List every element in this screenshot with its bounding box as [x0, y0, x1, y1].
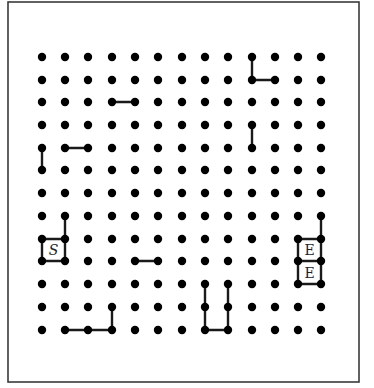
grid-dot[interactable] [317, 144, 325, 152]
grid-dot[interactable] [317, 212, 325, 220]
grid-dot[interactable] [84, 189, 92, 197]
grid-dot[interactable] [294, 53, 302, 61]
grid-dot[interactable] [294, 280, 302, 288]
grid-dot[interactable] [294, 121, 302, 129]
grid-dot[interactable] [178, 144, 186, 152]
grid-dot[interactable] [38, 53, 46, 61]
grid-dot[interactable] [201, 189, 209, 197]
grid-dot[interactable] [248, 53, 256, 61]
grid-dot[interactable] [154, 121, 162, 129]
grid-dot[interactable] [61, 303, 69, 311]
grid-dot[interactable] [108, 98, 116, 106]
grid-dot[interactable] [61, 53, 69, 61]
grid-dot[interactable] [248, 144, 256, 152]
grid-dot[interactable] [61, 235, 69, 243]
grid-dot[interactable] [154, 212, 162, 220]
grid-dot[interactable] [294, 144, 302, 152]
grid-dot[interactable] [84, 76, 92, 84]
grid-dot[interactable] [131, 280, 139, 288]
grid-dot[interactable] [61, 144, 69, 152]
grid-dot[interactable] [84, 98, 92, 106]
grid-dot[interactable] [131, 257, 139, 265]
grid-dot[interactable] [178, 53, 186, 61]
grid-dot[interactable] [271, 98, 279, 106]
grid-dot[interactable] [201, 326, 209, 334]
grid-dot[interactable] [131, 235, 139, 243]
grid-dot[interactable] [178, 280, 186, 288]
grid-dot[interactable] [84, 303, 92, 311]
grid-dot[interactable] [108, 280, 116, 288]
grid-dot[interactable] [317, 280, 325, 288]
grid-dot[interactable] [38, 235, 46, 243]
grid-dot[interactable] [84, 257, 92, 265]
grid-dot[interactable] [224, 166, 232, 174]
grid-dot[interactable] [317, 121, 325, 129]
grid-dot[interactable] [108, 235, 116, 243]
grid-dot[interactable] [131, 326, 139, 334]
grid-dot[interactable] [317, 326, 325, 334]
grid-dot[interactable] [271, 280, 279, 288]
grid-dot[interactable] [178, 166, 186, 174]
grid-dot[interactable] [201, 98, 209, 106]
grid-dot[interactable] [178, 76, 186, 84]
grid-dot[interactable] [248, 280, 256, 288]
grid-dot[interactable] [178, 121, 186, 129]
grid-dot[interactable] [294, 303, 302, 311]
grid-dot[interactable] [84, 144, 92, 152]
grid-dot[interactable] [61, 189, 69, 197]
grid-dot[interactable] [317, 166, 325, 174]
grid-dot[interactable] [108, 326, 116, 334]
grid-dot[interactable] [61, 280, 69, 288]
grid-dot[interactable] [271, 144, 279, 152]
grid-dot[interactable] [38, 303, 46, 311]
grid-dot[interactable] [271, 53, 279, 61]
grid-dot[interactable] [178, 189, 186, 197]
grid-dot[interactable] [131, 303, 139, 311]
grid-dot[interactable] [294, 257, 302, 265]
grid-dot[interactable] [154, 303, 162, 311]
grid-dot[interactable] [154, 235, 162, 243]
grid-dot[interactable] [317, 257, 325, 265]
grid-dot[interactable] [108, 144, 116, 152]
grid-dot[interactable] [131, 53, 139, 61]
grid-dot[interactable] [317, 76, 325, 84]
grid-dot[interactable] [271, 235, 279, 243]
grid-dot[interactable] [201, 53, 209, 61]
grid-dot[interactable] [294, 76, 302, 84]
grid-dot[interactable] [38, 326, 46, 334]
grid-dot[interactable] [224, 235, 232, 243]
grid-dot[interactable] [178, 257, 186, 265]
grid-dot[interactable] [154, 76, 162, 84]
grid-dot[interactable] [294, 166, 302, 174]
grid-dot[interactable] [61, 326, 69, 334]
grid-dot[interactable] [38, 121, 46, 129]
grid-dot[interactable] [248, 166, 256, 174]
grid-dot[interactable] [154, 144, 162, 152]
grid-dot[interactable] [84, 280, 92, 288]
grid-dot[interactable] [38, 144, 46, 152]
grid-dot[interactable] [224, 76, 232, 84]
grid-dot[interactable] [248, 303, 256, 311]
grid-dot[interactable] [201, 212, 209, 220]
grid-dot[interactable] [61, 166, 69, 174]
grid-dot[interactable] [154, 257, 162, 265]
grid-dot[interactable] [61, 98, 69, 106]
grid-dot[interactable] [271, 166, 279, 174]
grid-dot[interactable] [131, 76, 139, 84]
grid-dot[interactable] [224, 257, 232, 265]
grid-dot[interactable] [271, 121, 279, 129]
grid-dot[interactable] [108, 166, 116, 174]
grid-dot[interactable] [317, 189, 325, 197]
grid-dot[interactable] [248, 98, 256, 106]
grid-dot[interactable] [84, 121, 92, 129]
grid-dot[interactable] [84, 53, 92, 61]
grid-dot[interactable] [131, 166, 139, 174]
grid-dot[interactable] [317, 303, 325, 311]
grid-dot[interactable] [271, 303, 279, 311]
grid-dot[interactable] [201, 166, 209, 174]
grid-dot[interactable] [248, 121, 256, 129]
grid-dot[interactable] [61, 212, 69, 220]
grid-dot[interactable] [61, 257, 69, 265]
grid-dot[interactable] [108, 53, 116, 61]
grid-dot[interactable] [317, 53, 325, 61]
